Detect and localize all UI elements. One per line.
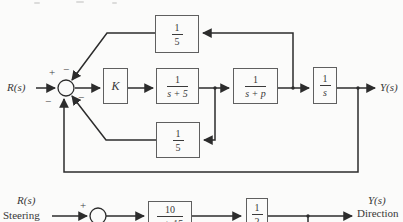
junction-dot xyxy=(356,86,359,89)
summing-junction xyxy=(58,80,74,96)
fraction-numerator: 1 xyxy=(245,74,266,87)
output-sublabel-direction: Direction xyxy=(357,207,399,219)
junction-dot xyxy=(291,86,294,89)
sum2-sign-plus: + xyxy=(80,200,86,211)
transfer-fraction: 1 5 xyxy=(173,128,184,153)
fraction-denominator: 5 xyxy=(173,141,184,153)
fraction-numerator: 1 xyxy=(320,73,331,86)
transfer-fraction: 1 s xyxy=(320,73,331,98)
block-1-over-s-plus-5: 1 s + 5 xyxy=(156,68,199,104)
block-gain-K: K xyxy=(103,68,128,104)
gain-label: K xyxy=(111,79,119,94)
block-diagram-figure: K 1 s + 5 1 s + p 1 s 1 5 1 5 R(s) Y(s) … xyxy=(0,0,403,222)
feedback-block-top-one-fifth: 1 5 xyxy=(155,15,199,53)
junction-dot xyxy=(306,214,309,217)
fraction-numerator: 1 xyxy=(167,74,188,87)
fraction-denominator: s + p xyxy=(245,87,266,99)
output-signal-label: Y(s) xyxy=(380,81,398,93)
wire-takeoff-to-feedback-bottom xyxy=(204,88,215,140)
sum-sign-minus-top: − xyxy=(63,64,69,75)
fraction-denominator: 5 xyxy=(172,35,183,47)
transfer-fraction: 1 5 xyxy=(172,22,183,47)
fraction-denominator: 2 xyxy=(252,215,263,222)
transfer-fraction: 1 s + p xyxy=(245,74,266,99)
transfer-fraction: 10 s + 15 xyxy=(157,204,183,222)
fraction-denominator: s xyxy=(320,86,331,98)
fraction-numerator: 1 xyxy=(173,128,184,141)
block2-1-over-2: 1 2 xyxy=(246,198,268,222)
input-signal-label-2: R(s) xyxy=(17,194,35,206)
fraction-denominator: s + 15 xyxy=(157,217,183,222)
summing-junction-2 xyxy=(90,208,106,222)
transfer-fraction: 1 s + 5 xyxy=(167,74,188,99)
block-1-over-s-plus-p: 1 s + p xyxy=(233,68,278,104)
sum-sign-minus-bottom-right: − xyxy=(78,92,84,103)
signal-wires xyxy=(0,0,403,222)
sum-sign-minus-bottom-left: − xyxy=(45,96,51,107)
block-1-over-s: 1 s xyxy=(313,67,337,104)
block2-10-over-s-plus-15: 10 s + 15 xyxy=(148,201,192,222)
fraction-numerator: 1 xyxy=(252,202,263,215)
fraction-denominator: s + 5 xyxy=(167,87,188,99)
input-sublabel-steering: Steering xyxy=(3,209,40,221)
transfer-fraction: 1 2 xyxy=(252,202,263,222)
sum-sign-plus: + xyxy=(49,67,55,78)
junction-dot xyxy=(213,86,216,89)
feedback-block-bottom-one-fifth: 1 5 xyxy=(156,122,200,158)
input-signal-label: R(s) xyxy=(7,81,25,93)
fraction-numerator: 10 xyxy=(157,204,183,217)
output-signal-label-2: Y(s) xyxy=(368,194,386,206)
fraction-numerator: 1 xyxy=(172,22,183,35)
